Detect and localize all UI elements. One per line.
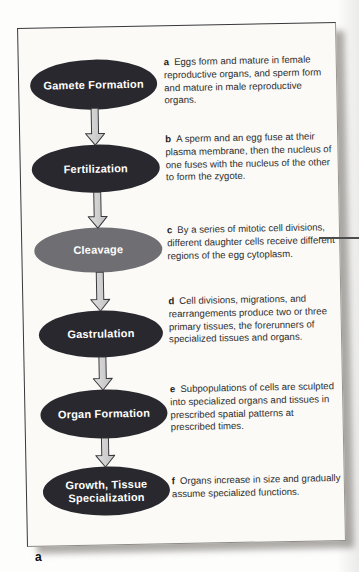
description-text: By a series of mitotic cell divisions, d… [167,221,335,261]
stage-description-b: bA sperm and an egg fuse at their plasma… [165,130,336,184]
stage-description-d: dCell divisions, migrations, and rearran… [168,292,339,346]
description-letter: a [164,56,170,67]
figure-label: a [35,550,42,564]
stage-ellipse-fertilization: Fertilization [31,143,160,193]
stage-description-e: eSubpopulations of cells are sculpted in… [170,380,341,434]
description-text: Subpopulations of cells are sculpted int… [170,380,334,433]
stage-label: Organ Formation [48,407,160,422]
description-text: A sperm and an egg fuse at their plasma … [165,130,331,182]
stage-label: Gamete Formation [33,77,154,92]
stage-label: Growth, Tissue Specialization [43,477,170,504]
down-arrow-icon [87,191,108,228]
stage-ellipse-gamete-formation: Gamete Formation [30,58,158,110]
stage-label: Fertilization [53,162,138,176]
stage-label: Gastrulation [57,327,144,341]
down-arrow-icon [95,437,116,467]
scanned-figure-page: Gamete Formation Fertilization Cleavage … [0,0,359,572]
stage-ellipse-organ-formation: Organ Formation [40,388,168,439]
figure-panel: Gamete Formation Fertilization Cleavage … [17,22,346,547]
down-arrow-icon [85,107,106,145]
description-letter: f [172,475,175,486]
description-text: Cell divisions, migrations, and rearrang… [168,293,327,345]
stage-label: Cleavage [63,243,133,257]
stage-ellipse-growth-tissue-specialization: Growth, Tissue Specialization [42,465,170,516]
description-letter: b [165,133,171,144]
description-text: Organs increase in size and gradually as… [172,472,341,499]
stage-description-c: cBy a series of mitotic cell divisions, … [167,221,338,263]
stage-description-f: fOrgans increase in size and gradually a… [172,472,342,501]
down-arrow-icon [90,271,111,311]
description-letter: e [170,383,176,394]
stage-ellipse-gastrulation: Gastrulation [38,309,163,358]
description-letter: c [167,224,173,235]
stage-description-a: aEggs form and mature in female reproduc… [164,53,335,107]
stage-ellipse-cleavage: Cleavage [34,226,163,273]
cleavage-callout-line [319,237,359,239]
down-arrow-icon [92,356,113,390]
description-text: Eggs form and mature in female reproduct… [164,53,321,105]
description-letter: d [168,295,174,306]
